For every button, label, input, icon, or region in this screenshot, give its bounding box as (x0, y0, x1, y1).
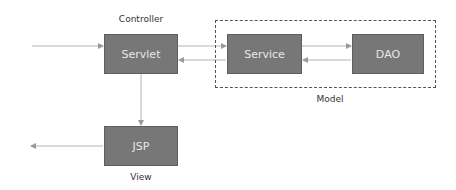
dao-box: DAO (352, 34, 424, 74)
view-label: View (104, 172, 178, 182)
servlet-label: Servlet (122, 48, 161, 61)
jsp-label: JSP (133, 140, 150, 153)
service-label: Service (244, 48, 285, 61)
dao-label: DAO (376, 48, 400, 61)
service-box: Service (227, 34, 302, 74)
model-label: Model (300, 94, 360, 104)
controller-label: Controller (104, 14, 178, 24)
servlet-box: Servlet (104, 34, 178, 74)
jsp-box: JSP (104, 126, 178, 166)
